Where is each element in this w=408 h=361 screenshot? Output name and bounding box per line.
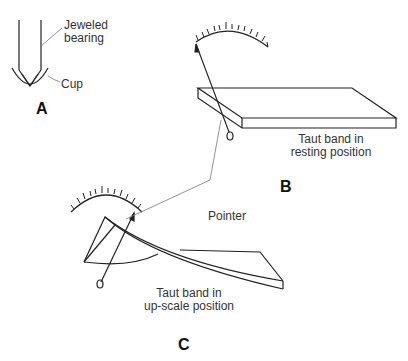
upscale-caption-line2: up-scale position — [134, 300, 244, 313]
resting-band-figure — [195, 22, 396, 140]
jeweled-bearing-label: Jeweled bearing — [64, 19, 108, 45]
panel-a-label: A — [36, 100, 48, 118]
upscale-caption: Taut band in up-scale position — [134, 287, 244, 313]
resting-caption: Taut band in resting position — [276, 133, 386, 159]
resting-caption-line2: resting position — [276, 146, 386, 159]
panel-b-label: B — [280, 178, 292, 196]
jeweled-label-line2: bearing — [64, 32, 108, 45]
panel-c-label: C — [178, 336, 190, 354]
jeweled-bearing-figure — [12, 20, 48, 86]
pointer-label: Pointer — [208, 210, 246, 223]
cup-label: Cup — [61, 78, 83, 91]
upscale-band-figure — [71, 186, 283, 289]
pointer-leaders — [126, 120, 221, 219]
